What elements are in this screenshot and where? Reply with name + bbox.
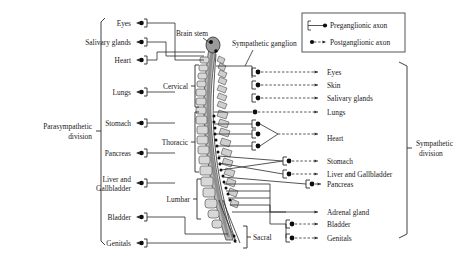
symp-brk-heart-c (252, 142, 256, 150)
brain-stem-label: Brain stem (176, 29, 208, 38)
parasympathetic-division-line2: division (68, 132, 92, 141)
sympathetic-bracket (399, 62, 407, 238)
symp-target-3-label: Lungs (327, 108, 346, 117)
symp-target-0-label: Eyes (327, 68, 341, 77)
symp-brk-genitals (286, 234, 290, 242)
region-sacral-label: Sacral (253, 233, 271, 242)
para-target-5-label: Pancreas (105, 149, 131, 158)
para-node-2 (139, 58, 144, 63)
symp-target-8-label: Adrenal gland (327, 208, 369, 217)
legend-item-1-label: Postganglionic axon (330, 38, 390, 47)
sympathetic-ganglion-annotation: Sympathetic ganglion (232, 39, 297, 66)
symp-pre-bladder (230, 205, 286, 224)
symp-node-pancreas (310, 182, 315, 187)
symp-brk-liver (283, 170, 287, 178)
parasympathetic-side: Parasympathetic division Eyes Salivary g… (43, 18, 271, 248)
symp-brk-2 (252, 94, 256, 102)
region-cervical-label: Cervical (163, 82, 188, 91)
para-brk-8 (144, 239, 147, 247)
symp-node-stomach (287, 159, 292, 164)
lumbar-bracket (197, 179, 201, 219)
symp-node-heart-b (256, 132, 261, 137)
sympathetic-division-line2: division (419, 149, 443, 158)
para-brk-2 (144, 56, 147, 64)
para-target-8-label: Genitals (106, 239, 131, 248)
symp-ganglion-nodes (253, 70, 315, 241)
para-node-1 (139, 40, 144, 45)
symp-postganglionic-wires (258, 72, 321, 238)
symp-node-liver (287, 172, 292, 177)
para-node-7 (139, 215, 144, 220)
para-target-7-label: Bladder (108, 213, 132, 222)
region-thoracic-label: Thoracic (162, 138, 189, 147)
para-brk-0 (144, 19, 147, 27)
diagram-canvas: Brain stem Sympathetic ganglion Pregangl… (0, 0, 462, 261)
legend: Preganglionic axon Postganglionic axon (302, 13, 405, 52)
para-brk-1 (144, 38, 147, 46)
sacral-bracket (243, 226, 247, 248)
para-target-6-label: Liver and (102, 175, 131, 184)
para-target-4-label: Stomach (105, 119, 131, 128)
symp-node-bladder (290, 222, 295, 227)
symp-brk-0 (252, 68, 256, 76)
symp-node-heart-c (256, 144, 261, 149)
para-brk-3 (144, 88, 147, 96)
para-pre-1 (147, 42, 204, 56)
symp-target-1-label: Skin (327, 81, 341, 90)
postganglionic-origin-dot (310, 40, 314, 44)
para-node-3 (139, 90, 144, 95)
symp-node-genitals (290, 236, 295, 241)
sympathetic-ganglion-label: Sympathetic ganglion (232, 39, 297, 48)
brain-stem-node-2 (214, 49, 218, 53)
region-lumbar-label: Lumbar (167, 195, 191, 204)
para-node-4 (139, 121, 144, 126)
para-node-0 (139, 21, 144, 26)
symp-target-6-label: Liver and Gallbladder (327, 170, 393, 179)
parasympathetic-division-line1: Parasympathetic (43, 122, 93, 131)
para-node-6 (139, 181, 144, 186)
heart-convergence-lines (260, 124, 278, 146)
symp-brk-heart-b (252, 130, 256, 138)
brain-stem-node (209, 40, 213, 44)
para-target-3-label: Lungs (113, 88, 132, 97)
sympathetic-chain (217, 56, 239, 208)
symp-target-4-label: Heart (327, 134, 344, 143)
para-target-2-label: Heart (115, 56, 132, 65)
para-brk-5 (144, 149, 147, 157)
symp-brk-pancreas (306, 180, 310, 188)
symp-node-salivary (256, 96, 261, 101)
para-brk-4 (144, 119, 147, 127)
parasympathetic-bracket (101, 18, 105, 245)
symp-node-skin (256, 83, 261, 88)
symp-brk-bladder (286, 220, 290, 228)
symp-target-7-label: Pancreas (327, 180, 353, 189)
preganglionic-terminal-dot (323, 23, 327, 27)
sympathetic-ganglion-leader (245, 50, 253, 66)
symp-target-2-label: Salivary glands (327, 94, 373, 103)
brain-stem-structure (206, 37, 220, 53)
autonomic-nervous-system-diagram: Brain stem Sympathetic ganglion Pregangl… (0, 0, 462, 261)
symp-node-heart-a (256, 122, 261, 127)
symp-target-9-label: Bladder (327, 220, 351, 229)
para-node-5 (139, 151, 144, 156)
para-target-1-label: Salivary glands (85, 38, 131, 47)
para-target-6-label-2: Gallbladder (96, 184, 131, 193)
legend-item-0-label: Preganglionic axon (330, 21, 388, 30)
para-target-0-label: Eyes (117, 19, 131, 28)
symp-node-eyes (256, 70, 261, 75)
symp-brk-1 (252, 81, 256, 89)
para-node-8 (139, 241, 144, 246)
para-brk-7 (144, 213, 147, 221)
brain-stem-annotation: Brain stem (176, 29, 210, 43)
para-brk-6 (144, 179, 147, 187)
symp-brk-stomach (283, 157, 287, 165)
sympathetic-division-line1: Sympathetic (416, 139, 454, 148)
symp-target-10-label: Genitals (327, 234, 352, 243)
symp-brk-heart-a (252, 120, 256, 128)
symp-target-5-label: Stomach (327, 157, 353, 166)
sympathetic-side: Eyes Skin Salivary glands Lungs Heart St… (214, 62, 454, 243)
symp-node-lungs (253, 110, 258, 115)
